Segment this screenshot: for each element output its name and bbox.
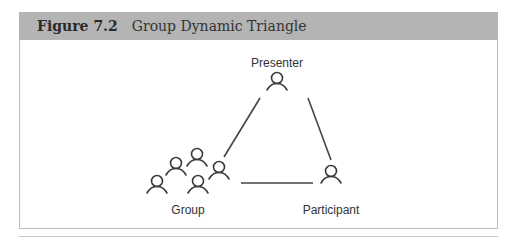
participant-node: Participant: [303, 166, 360, 218]
group-label: Group: [171, 203, 205, 217]
person-icon: [209, 162, 229, 180]
edge-presenter-participant: [308, 98, 331, 160]
person-icon: [321, 166, 341, 184]
person-icon: [267, 73, 287, 91]
person-icon: [147, 176, 167, 194]
person-icon: [187, 149, 207, 167]
presenter-label: Presenter: [251, 56, 303, 70]
group-node: Group: [147, 149, 229, 218]
presenter-node: Presenter: [251, 56, 303, 90]
edge-group-presenter: [224, 98, 260, 157]
person-icon: [188, 176, 208, 194]
participant-label: Participant: [303, 203, 360, 217]
group-dynamic-triangle-diagram: Presenter Participant Group: [0, 0, 517, 245]
person-icon: [166, 158, 186, 176]
